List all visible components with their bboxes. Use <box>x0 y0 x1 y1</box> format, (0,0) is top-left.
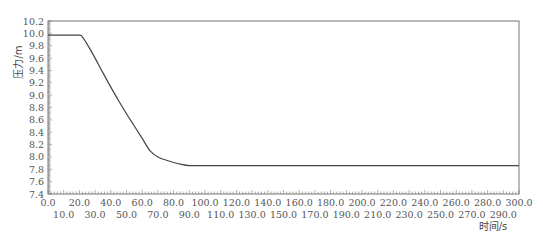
x-tick-label: 240.0 <box>411 197 438 208</box>
y-tick-label: 8.6 <box>29 114 44 125</box>
x-tick-label: 190.0 <box>333 209 360 220</box>
x-axis-title: 时间/s <box>479 220 508 232</box>
x-tick-label: 80.0 <box>163 197 184 208</box>
x-tick-label: 60.0 <box>132 197 153 208</box>
x-tick-label: 10.0 <box>53 209 74 220</box>
y-tick-label: 9.0 <box>29 90 44 101</box>
x-tick-label: 270.0 <box>458 209 485 220</box>
plot-frame <box>48 21 519 194</box>
y-tick-label: 9.8 <box>29 40 44 51</box>
y-tick-label: 9.2 <box>29 77 44 88</box>
x-tick-label: 300.0 <box>505 197 532 208</box>
x-tick-label: 140.0 <box>254 197 281 208</box>
pressure-line <box>48 35 519 166</box>
y-tick-label: 7.6 <box>29 176 44 187</box>
x-tick-label: 250.0 <box>427 209 454 220</box>
x-tick-label: 210.0 <box>364 209 391 220</box>
x-tick-label: 30.0 <box>85 209 106 220</box>
x-tick-label: 40.0 <box>100 197 121 208</box>
x-tick-label: 70.0 <box>147 209 168 220</box>
x-tick-label: 0.0 <box>40 197 55 208</box>
x-tick-label: 280.0 <box>474 197 501 208</box>
y-tick-label: 7.8 <box>29 164 44 175</box>
y-tick-label: 8.0 <box>29 151 44 162</box>
plot-border <box>48 21 519 194</box>
x-tick-label: 200.0 <box>348 197 375 208</box>
y-tick-label: 8.2 <box>29 139 44 150</box>
x-tick-label: 170.0 <box>301 209 328 220</box>
y-tick-label: 10.2 <box>23 16 44 27</box>
y-tick-label: 8.8 <box>29 102 44 113</box>
x-tick-label: 50.0 <box>116 209 137 220</box>
x-tick-label: 230.0 <box>395 209 422 220</box>
x-tick-label: 120.0 <box>223 197 250 208</box>
x-tick-label: 220.0 <box>380 197 407 208</box>
pressure-time-chart: 10.210.09.89.69.49.29.08.88.68.48.28.07.… <box>0 0 543 243</box>
x-tick-label: 130.0 <box>238 209 265 220</box>
y-tick-label: 9.4 <box>29 65 44 76</box>
y-axis-title: 压力/m <box>12 45 24 78</box>
x-tick-label: 90.0 <box>179 209 200 220</box>
x-tick-label: 100.0 <box>191 197 218 208</box>
y-tick-label: 10.0 <box>23 28 44 39</box>
x-tick-label: 150.0 <box>270 209 297 220</box>
y-tick-label: 8.4 <box>29 127 44 138</box>
x-tick-label: 260.0 <box>443 197 470 208</box>
x-tick-label: 290.0 <box>490 209 517 220</box>
x-tick-label: 180.0 <box>317 197 344 208</box>
x-tick-label: 20.0 <box>69 197 90 208</box>
x-tick-label: 160.0 <box>286 197 313 208</box>
x-tick-label: 110.0 <box>207 209 234 220</box>
y-tick-label: 9.6 <box>29 53 44 64</box>
